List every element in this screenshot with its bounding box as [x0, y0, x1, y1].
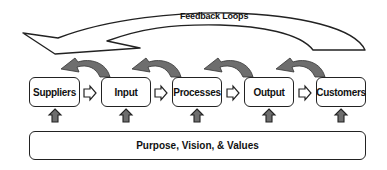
back-arrow-processes-to-input	[132, 58, 181, 77]
stage-input: Input	[101, 77, 151, 107]
stage-customers: Customers	[316, 77, 366, 107]
up-arrow-icon	[49, 109, 61, 122]
feedback-loops-label: Feedback Loops	[180, 11, 248, 21]
forward-arrow-icon	[84, 86, 96, 100]
foundation-bar: Purpose, Vision, & Values	[29, 131, 366, 160]
up-arrow-icon	[191, 109, 203, 122]
up-arrow-icon	[120, 109, 132, 122]
back-arrow-output-to-processes	[204, 58, 253, 77]
back-arrow-customers-to-output	[276, 58, 325, 77]
stage-suppliers: Suppliers	[29, 77, 80, 107]
stage-processes: Processes	[172, 77, 222, 107]
up-arrow-icon	[335, 109, 347, 122]
forward-arrow-icon	[299, 86, 311, 100]
stage-output: Output	[244, 77, 294, 107]
up-arrow-icon	[263, 109, 275, 122]
back-arrow-input-to-suppliers	[61, 58, 110, 77]
forward-arrow-icon	[155, 86, 167, 100]
forward-arrow-icon	[227, 86, 239, 100]
